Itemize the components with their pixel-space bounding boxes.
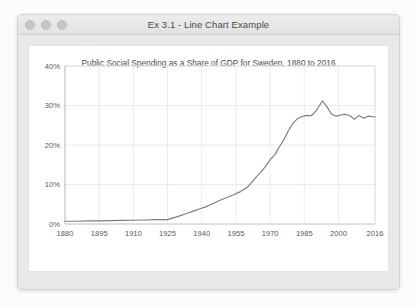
svg-text:1970: 1970: [262, 229, 279, 238]
window-title: Ex 3.1 - Line Chart Example: [18, 19, 399, 30]
line-chart-svg: 0%10%20%30%40%18801895191019251940195519…: [29, 46, 390, 285]
svg-text:2016: 2016: [367, 229, 384, 238]
svg-text:2000: 2000: [330, 229, 347, 238]
window-content: Public Social Spending as a Share of GDP…: [18, 35, 399, 289]
chart-card: Public Social Spending as a Share of GDP…: [28, 45, 389, 272]
desktop-background: Ex 3.1 - Line Chart Example Public Socia…: [0, 0, 417, 306]
svg-text:10%: 10%: [45, 180, 60, 189]
svg-text:1895: 1895: [91, 229, 108, 238]
svg-text:30%: 30%: [45, 101, 60, 110]
svg-text:1955: 1955: [228, 229, 245, 238]
svg-text:20%: 20%: [45, 141, 60, 150]
minimize-button[interactable]: [41, 20, 51, 30]
svg-text:1880: 1880: [57, 229, 74, 238]
svg-text:1910: 1910: [125, 229, 142, 238]
data-series-line: [65, 101, 375, 221]
svg-text:1925: 1925: [159, 229, 176, 238]
close-button[interactable]: [25, 20, 35, 30]
window-controls: [25, 15, 67, 34]
svg-text:40%: 40%: [45, 62, 60, 71]
app-window: Ex 3.1 - Line Chart Example Public Socia…: [17, 14, 400, 290]
window-titlebar[interactable]: Ex 3.1 - Line Chart Example: [18, 15, 399, 35]
svg-text:1940: 1940: [193, 229, 210, 238]
maximize-button[interactable]: [57, 20, 67, 30]
chart-plot-area: 0%10%20%30%40%18801895191019251940195519…: [29, 46, 388, 271]
svg-text:1985: 1985: [296, 229, 313, 238]
svg-text:0%: 0%: [49, 220, 60, 229]
